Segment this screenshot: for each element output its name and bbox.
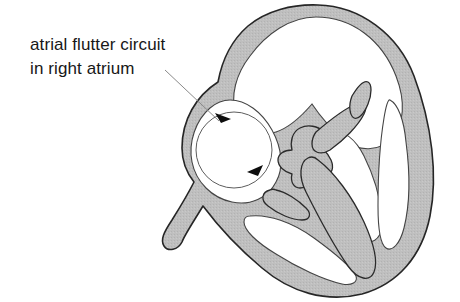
figure-canvas: atrial flutter circuit in right atrium (0, 0, 460, 302)
annotation-line-2: in right atrium (30, 59, 134, 78)
heart-cross-section-diagram: atrial flutter circuit in right atrium (0, 0, 460, 302)
annotation-line-1: atrial flutter circuit (30, 35, 166, 54)
